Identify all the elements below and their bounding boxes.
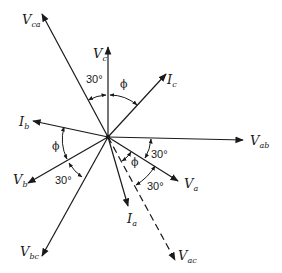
angle-top-phi: ϕ xyxy=(120,78,128,91)
arc-top-30 xyxy=(89,95,107,100)
label-i-b: Ib xyxy=(18,114,29,131)
v-bc-phasor xyxy=(42,137,108,256)
angle-right-phi: ϕ xyxy=(131,156,139,169)
arc-left-phi xyxy=(62,127,67,159)
label-v-ca: Vca xyxy=(22,12,41,29)
i-c-phasor xyxy=(108,74,166,137)
label-v-b: Vb xyxy=(13,172,28,189)
label-i-c: Ic xyxy=(166,72,177,89)
label-v-a: Va xyxy=(184,176,198,193)
label-v-c: Vc xyxy=(93,46,107,63)
label-v-bc: Vbc xyxy=(20,244,40,261)
angle-right-30-lower: 30° xyxy=(147,180,164,192)
label-i-a: Ia xyxy=(126,211,137,228)
angle-right-30-upper: 30° xyxy=(151,148,168,160)
angle-top-30: 30° xyxy=(86,73,103,85)
angle-left-phi: ϕ xyxy=(52,140,60,153)
origin-dot xyxy=(106,135,110,139)
angle-left-30: 30° xyxy=(55,174,72,186)
phasor-diagram: Vab Vc Vca Ic Ib Vb Vbc Ia Va Vac 30° ϕ … xyxy=(0,0,282,273)
i-b-phasor xyxy=(33,121,108,137)
arc-top-phi xyxy=(110,95,137,105)
label-v-ab: Vab xyxy=(250,133,269,150)
label-v-ac: Vac xyxy=(178,248,197,265)
arc-right-phi xyxy=(122,152,131,161)
v-ab-phasor xyxy=(108,137,243,140)
